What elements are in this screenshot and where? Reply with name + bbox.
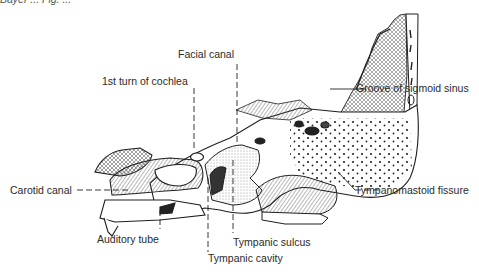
anatomy-diagram: Bayer ... Fig. ... bbox=[0, 0, 479, 272]
temporal-bone-illustration bbox=[0, 0, 479, 272]
label-cochlea: 1st turn of cochlea bbox=[102, 75, 188, 87]
label-tympanic-cavity: Tympanic cavity bbox=[208, 252, 283, 264]
label-carotid-canal: Carotid canal bbox=[10, 184, 72, 196]
label-tympanomastoid-fissure: Tympanomastoid fissure bbox=[355, 184, 469, 196]
label-sigmoid-sinus-groove: Groove of sigmoid sinus bbox=[356, 82, 469, 94]
mastoid-plate bbox=[338, 14, 418, 118]
label-tympanic-sulcus: Tympanic sulcus bbox=[233, 236, 311, 248]
label-facial-canal: Facial canal bbox=[178, 48, 234, 60]
label-auditory-tube: Auditory tube bbox=[97, 233, 159, 245]
